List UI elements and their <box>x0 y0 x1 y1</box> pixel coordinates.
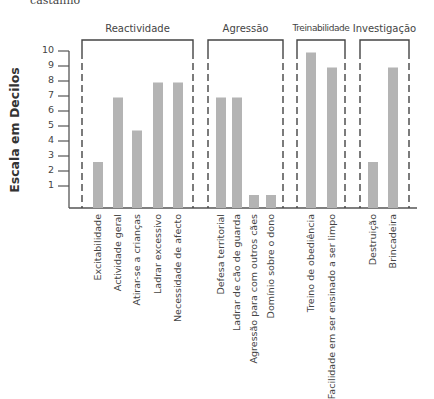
x-category-label: Destruição <box>367 214 378 265</box>
x-category-label: Agressão para com outros cães <box>248 214 259 363</box>
x-category-label: Treino de obediência <box>305 214 316 312</box>
x-category-label: Excitabilidade <box>92 214 103 281</box>
y-tick-label: 7 <box>32 89 54 100</box>
y-tick-label: 3 <box>32 149 54 160</box>
bar <box>306 53 316 209</box>
group-title: Agressão <box>223 23 269 34</box>
group-bracket <box>82 40 193 52</box>
group-bracket <box>208 40 283 52</box>
bar <box>216 98 226 209</box>
bar <box>153 83 163 209</box>
group-title: Reactividade <box>105 23 170 34</box>
x-category-label: Brincadeira <box>387 214 398 268</box>
y-tick-label: 6 <box>32 104 54 115</box>
y-tick-label: 8 <box>32 74 54 85</box>
bar <box>113 98 123 209</box>
bar <box>327 68 337 209</box>
x-category-label: Defesa territorial <box>215 214 226 295</box>
y-tick-label: 9 <box>32 59 54 70</box>
bar <box>368 162 378 208</box>
x-category-label: Facilidade em ser ensinado a ser limpo <box>326 214 337 399</box>
group-title: Treinabilidade <box>292 23 349 33</box>
group-bracket <box>297 40 345 52</box>
x-category-label: Necessidade de afecto <box>172 214 183 322</box>
x-category-label: Domínio sobre o dono <box>265 214 276 318</box>
group-title: Investigação <box>353 23 417 34</box>
x-category-label: Actividade geral <box>112 214 123 291</box>
group-bracket <box>360 40 409 52</box>
y-tick-label: 1 <box>32 179 54 190</box>
x-category-label: Atirar-se a crianças <box>131 214 142 305</box>
bar <box>249 195 259 208</box>
y-tick-label: 4 <box>32 134 54 145</box>
bar <box>93 162 103 208</box>
bar <box>173 83 183 209</box>
x-category-label: Ladrar de cão de guarda <box>231 214 242 331</box>
bar <box>232 98 242 209</box>
bar <box>388 68 398 209</box>
bar <box>132 131 142 209</box>
y-tick-label: 10 <box>32 44 54 55</box>
y-tick-label: 2 <box>32 164 54 175</box>
bar <box>266 195 276 208</box>
y-tick-label: 5 <box>32 119 54 130</box>
x-category-label: Ladrar excessivo <box>152 214 163 294</box>
